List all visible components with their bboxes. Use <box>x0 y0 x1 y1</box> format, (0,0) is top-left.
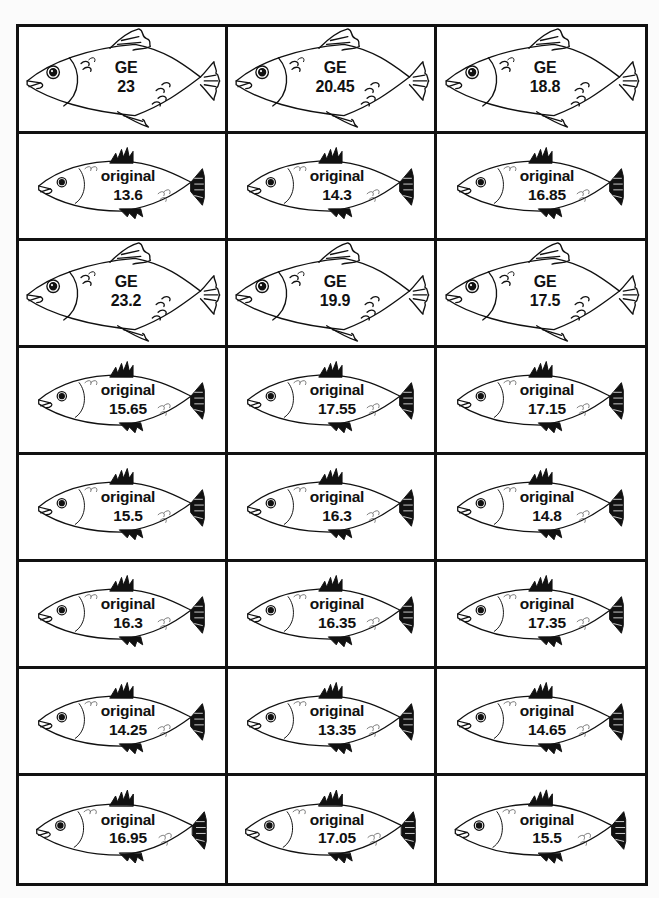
fish-type-label: original <box>310 595 364 614</box>
fish-size-value: 16.35 <box>310 614 364 633</box>
fish-type-label: original <box>101 595 155 614</box>
fish-label: original16.85 <box>520 167 574 204</box>
ge-fish-card: GE18.8 <box>437 27 645 134</box>
original-fish-card: original14.25 <box>19 669 228 776</box>
fish-label: original15.5 <box>101 488 155 525</box>
fish-size-value: 14.65 <box>520 721 574 740</box>
fish-type-label: original <box>101 488 155 507</box>
fish-type-label: original <box>520 811 574 830</box>
fish-label: original14.65 <box>520 702 574 739</box>
fish-label: original15.65 <box>101 381 155 418</box>
fish-label: original17.15 <box>520 381 574 418</box>
original-fish-card: original15.5 <box>437 776 645 883</box>
fish-size-value: 17.05 <box>310 830 364 849</box>
fish-label: original17.55 <box>310 381 364 418</box>
fish-size-value: 15.65 <box>101 400 155 419</box>
original-fish-card: original13.35 <box>228 669 437 776</box>
fish-label: GE18.8 <box>530 58 560 96</box>
fish-label: original14.8 <box>520 488 574 525</box>
fish-type-label: original <box>101 381 155 400</box>
fish-size-value: 15.5 <box>520 830 574 849</box>
original-fish-card: original17.05 <box>228 776 437 883</box>
original-fish-card: original16.85 <box>437 134 645 241</box>
ge-fish-card: GE19.9 <box>228 241 437 348</box>
original-fish-card: original14.65 <box>437 669 645 776</box>
original-fish-card: original14.8 <box>437 455 645 562</box>
fish-type-label: original <box>310 488 364 507</box>
fish-label: GE20.45 <box>315 58 354 96</box>
original-fish-card: original14.3 <box>228 134 437 241</box>
fish-type-label: GE <box>111 272 141 291</box>
fish-size-value: 15.5 <box>101 507 155 526</box>
original-fish-card: original16.35 <box>228 562 437 669</box>
ge-fish-card: GE20.45 <box>228 27 437 134</box>
fish-type-label: original <box>101 167 155 186</box>
fish-size-value: 20.45 <box>315 77 354 96</box>
fish-size-value: 23 <box>115 77 138 96</box>
fish-size-value: 14.25 <box>101 721 155 740</box>
original-fish-card: original13.6 <box>19 134 228 241</box>
fish-size-value: 13.6 <box>101 186 155 205</box>
fish-card-sheet: GE23 <box>16 24 648 886</box>
fish-size-value: 16.85 <box>520 186 574 205</box>
fish-type-label: original <box>520 595 574 614</box>
original-fish-card: original15.5 <box>19 455 228 562</box>
fish-type-label: GE <box>530 272 560 291</box>
fish-size-value: 17.35 <box>520 614 574 633</box>
fish-label: original17.35 <box>520 595 574 632</box>
original-fish-card: original15.65 <box>19 348 228 455</box>
fish-size-value: 14.3 <box>310 186 364 205</box>
fish-type-label: original <box>310 167 364 186</box>
fish-type-label: original <box>310 381 364 400</box>
fish-type-label: original <box>101 702 155 721</box>
fish-label: original14.25 <box>101 702 155 739</box>
fish-type-label: original <box>520 167 574 186</box>
ge-fish-card: GE17.5 <box>437 241 645 348</box>
fish-size-value: 18.8 <box>530 77 560 96</box>
fish-size-value: 16.3 <box>101 614 155 633</box>
original-fish-card: original16.3 <box>228 455 437 562</box>
fish-label: original16.95 <box>101 811 155 848</box>
fish-label: GE17.5 <box>530 272 560 310</box>
fish-type-label: original <box>520 381 574 400</box>
fish-label: original14.3 <box>310 167 364 204</box>
fish-label: original13.6 <box>101 167 155 204</box>
fish-size-value: 23.2 <box>111 291 141 310</box>
original-fish-card: original17.15 <box>437 348 645 455</box>
fish-type-label: original <box>520 488 574 507</box>
fish-size-value: 17.15 <box>520 400 574 419</box>
fish-type-label: original <box>310 811 364 830</box>
fish-type-label: original <box>520 702 574 721</box>
fish-label: original17.05 <box>310 811 364 848</box>
fish-size-value: 16.95 <box>101 830 155 849</box>
fish-type-label: original <box>101 811 155 830</box>
fish-type-label: GE <box>315 58 354 77</box>
fish-label: original13.35 <box>310 702 364 739</box>
fish-size-value: 16.3 <box>310 507 364 526</box>
fish-type-label: GE <box>530 58 560 77</box>
fish-label: original16.3 <box>310 488 364 525</box>
fish-label: original16.35 <box>310 595 364 632</box>
fish-type-label: GE <box>115 58 138 77</box>
original-fish-card: original17.55 <box>228 348 437 455</box>
fish-label: original15.5 <box>520 811 574 848</box>
ge-fish-card: GE23.2 <box>19 241 228 348</box>
fish-label: GE19.9 <box>320 272 350 310</box>
original-fish-card: original16.95 <box>19 776 228 883</box>
fish-label: GE23.2 <box>111 272 141 310</box>
fish-type-label: GE <box>320 272 350 291</box>
fish-size-value: 17.5 <box>530 291 560 310</box>
fish-size-value: 14.8 <box>520 507 574 526</box>
fish-size-value: 17.55 <box>310 400 364 419</box>
fish-size-value: 13.35 <box>310 721 364 740</box>
fish-size-value: 19.9 <box>320 291 350 310</box>
original-fish-card: original17.35 <box>437 562 645 669</box>
original-fish-card: original16.3 <box>19 562 228 669</box>
fish-label: original16.3 <box>101 595 155 632</box>
fish-type-label: original <box>310 702 364 721</box>
fish-label: GE23 <box>115 58 138 96</box>
ge-fish-card: GE23 <box>19 27 228 134</box>
